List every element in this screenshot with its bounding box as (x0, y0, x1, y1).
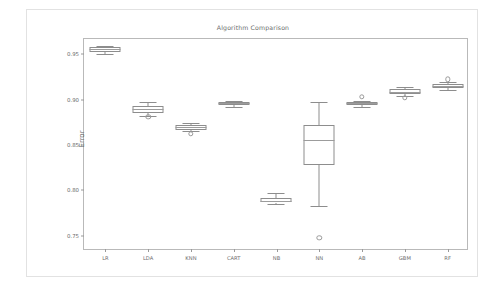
box-cart (212, 39, 255, 249)
x-tick-label-nn: NN (315, 255, 323, 261)
cap-lower (97, 54, 114, 55)
cap-upper (311, 102, 328, 103)
outlier-point (359, 94, 364, 99)
x-tick-label-cart: CART (227, 255, 241, 261)
box-rf (426, 39, 469, 249)
x-tick-mark (191, 249, 192, 252)
cap-lower (354, 107, 371, 108)
box-ab (341, 39, 384, 249)
box-lda (127, 39, 170, 249)
x-tick-mark (362, 249, 363, 252)
x-tick-label-knn: KNN (185, 255, 196, 261)
median-line (432, 86, 463, 87)
cap-lower (225, 107, 242, 108)
cap-lower (439, 90, 456, 91)
outlier-point (445, 77, 450, 82)
median-line (175, 127, 206, 128)
figure-canvas: Algorithm Comparison Error 0.750.800.850… (26, 9, 478, 277)
median-line (261, 201, 292, 202)
median-line (218, 103, 249, 104)
cap-upper (268, 193, 285, 194)
median-line (90, 49, 121, 50)
x-tick-label-gbm: GBM (399, 255, 411, 261)
x-tick-mark (148, 249, 149, 252)
x-tick-mark (105, 249, 106, 252)
x-tick-mark (234, 249, 235, 252)
box-iqr (304, 125, 335, 165)
x-tick-label-ab: AB (358, 255, 365, 261)
median-line (347, 103, 378, 104)
chart-title: Algorithm Comparison (27, 24, 479, 31)
median-line (304, 140, 335, 141)
x-tick-label-rf: RF (444, 255, 451, 261)
median-line (133, 109, 164, 110)
plot-axes: Error 0.750.800.850.900.95 LRLDAKNNCARTN… (83, 38, 468, 250)
cap-upper (140, 102, 157, 103)
box-knn (170, 39, 213, 249)
x-tick-label-nb: NB (273, 255, 280, 261)
x-tick-mark (277, 249, 278, 252)
box-lr (84, 39, 127, 249)
outlier-point (402, 95, 407, 100)
box-nb (255, 39, 298, 249)
outlier-point (188, 131, 193, 136)
x-tick-label-lr: LR (102, 255, 109, 261)
x-tick-mark (405, 249, 406, 252)
x-tick-mark (448, 249, 449, 252)
box-gbm (383, 39, 426, 249)
cap-lower (311, 206, 328, 207)
median-line (389, 92, 420, 93)
cap-lower (268, 204, 285, 205)
outlier-point (317, 235, 322, 240)
whisker-upper (319, 102, 320, 125)
cap-upper (396, 87, 413, 88)
x-tick-label-lda: LDA (143, 255, 153, 261)
x-tick-mark (319, 249, 320, 252)
outlier-point (145, 114, 150, 119)
whisker-lower (319, 165, 320, 206)
box-nn (298, 39, 341, 249)
